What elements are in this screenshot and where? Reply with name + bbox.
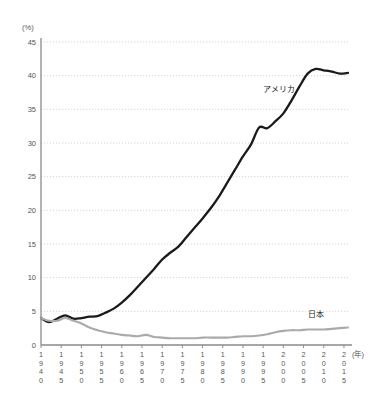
x-tick-digit: 5 bbox=[140, 376, 144, 385]
x-tick-digit: 5 bbox=[302, 376, 306, 385]
y-tick-label-35: 35 bbox=[28, 105, 36, 114]
x-tick-label-2010: 2010 bbox=[322, 350, 326, 385]
y-tick-label-20: 20 bbox=[28, 206, 36, 215]
y-tick-label-30: 30 bbox=[28, 139, 36, 148]
x-tick-label-2005: 2005 bbox=[302, 350, 306, 385]
x-tick-digit: 0 bbox=[79, 376, 83, 385]
line-chart: 051015202530354045 194019451950195519601… bbox=[0, 0, 376, 401]
x-tick-label-1965: 1965 bbox=[140, 350, 144, 385]
x-tick-digit: 5 bbox=[180, 376, 184, 385]
x-tick-label-1960: 1960 bbox=[120, 350, 124, 385]
x-tick-label-1990: 1990 bbox=[241, 350, 245, 385]
x-tick-digit: 5 bbox=[221, 376, 225, 385]
x-tick-label-1985: 1985 bbox=[221, 350, 225, 385]
x-tick-digit: 0 bbox=[201, 376, 205, 385]
y-tick-label-15: 15 bbox=[28, 240, 36, 249]
x-tick-label-1950: 1950 bbox=[79, 350, 83, 385]
y-tick-label-25: 25 bbox=[28, 172, 36, 181]
x-tick-label-1980: 1980 bbox=[201, 350, 205, 385]
x-tick-digit: 5 bbox=[342, 376, 346, 385]
y-tick-label-40: 40 bbox=[28, 71, 36, 80]
series-label-japan: 日本 bbox=[308, 309, 324, 319]
chart-container: 051015202530354045 194019451950195519601… bbox=[0, 0, 376, 401]
x-tick-digit: 0 bbox=[120, 376, 124, 385]
x-tick-digit: 0 bbox=[241, 376, 245, 385]
y-tick-label-10: 10 bbox=[28, 273, 36, 282]
x-tick-label-1995: 1995 bbox=[261, 350, 265, 385]
x-tick-label-2000: 2000 bbox=[281, 350, 285, 385]
x-tick-label-1955: 1955 bbox=[100, 350, 104, 385]
x-tick-digit: 0 bbox=[322, 376, 326, 385]
x-tick-label-1945: 1945 bbox=[59, 350, 63, 385]
y-axis-unit-label: (%) bbox=[22, 23, 34, 32]
x-tick-label-1970: 1970 bbox=[160, 350, 164, 385]
x-tick-digit: 0 bbox=[160, 376, 164, 385]
x-tick-digit: 5 bbox=[59, 376, 63, 385]
x-tick-digit: 0 bbox=[281, 376, 285, 385]
x-tick-label-1975: 1975 bbox=[180, 350, 184, 385]
chart-background bbox=[0, 0, 376, 401]
series-label-america: アメリカ bbox=[263, 85, 295, 94]
x-tick-digit: 0 bbox=[39, 376, 43, 385]
x-tick-label-2015: 2015 bbox=[342, 350, 346, 385]
y-tick-label-45: 45 bbox=[28, 38, 36, 47]
x-tick-label-1940: 1940 bbox=[39, 350, 43, 385]
x-tick-digit: 5 bbox=[261, 376, 265, 385]
x-axis-unit-label: (年) bbox=[352, 349, 364, 359]
y-tick-label-0: 0 bbox=[32, 341, 36, 350]
x-tick-digit: 5 bbox=[100, 376, 104, 385]
y-tick-label-5: 5 bbox=[32, 307, 36, 316]
